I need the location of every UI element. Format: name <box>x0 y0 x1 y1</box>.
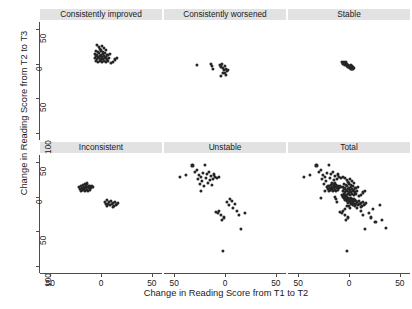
x-axis-tick <box>298 274 299 277</box>
data-point <box>109 52 112 55</box>
data-point <box>211 68 214 71</box>
data-point <box>357 185 360 188</box>
data-point <box>110 61 113 64</box>
data-point <box>344 219 347 222</box>
data-point <box>365 201 368 204</box>
panel-plot-area <box>288 22 410 140</box>
y-axis-tick-label: 100 <box>43 140 53 154</box>
y-axis-tick <box>36 29 39 30</box>
y-axis-tick <box>36 98 39 99</box>
x-axis-tick-label: 50 <box>293 278 302 288</box>
data-point <box>217 175 220 178</box>
x-axis-tick-label: 50 <box>45 278 54 288</box>
data-point <box>240 228 243 231</box>
x-axis-tick-label: 50 <box>271 278 280 288</box>
data-point <box>362 214 365 217</box>
data-point <box>195 169 198 172</box>
y-axis-tick-label: 50 <box>38 103 48 112</box>
data-point <box>384 226 387 229</box>
data-point <box>179 176 182 179</box>
data-point <box>191 164 194 167</box>
data-point <box>335 201 338 204</box>
data-point <box>319 169 322 172</box>
panel-strip-label: Stable <box>288 9 410 20</box>
data-point <box>228 203 231 206</box>
y-axis-tick <box>36 162 39 163</box>
data-point <box>364 228 367 231</box>
data-point <box>378 203 381 206</box>
x-axis-tick <box>400 274 401 277</box>
y-axis-tick <box>36 266 39 267</box>
data-point <box>356 206 359 209</box>
x-axis-tick <box>50 274 51 277</box>
data-point <box>331 170 334 173</box>
x-axis-tick-label: 0 <box>99 278 104 288</box>
data-point <box>227 68 230 71</box>
data-point <box>315 164 318 167</box>
panel-strip-label: Inconsistent <box>40 142 162 153</box>
data-point <box>88 188 91 191</box>
y-axis-tick-label: 0 <box>34 66 44 71</box>
data-point <box>380 218 383 221</box>
data-point <box>219 75 222 78</box>
panel-plot-area <box>164 155 286 273</box>
data-point <box>327 163 330 166</box>
data-point <box>224 73 227 76</box>
data-point <box>198 183 201 186</box>
data-point <box>348 206 351 209</box>
data-point <box>185 174 188 177</box>
panel-stable: Stable <box>288 9 410 140</box>
data-point <box>234 202 237 205</box>
panel-consistently-worsened: Consistently worsened <box>164 9 286 140</box>
data-point <box>203 163 206 166</box>
data-point <box>202 185 205 188</box>
data-point <box>206 181 209 184</box>
x-axis-tick <box>174 274 175 277</box>
x-axis-tick-label: 0 <box>223 278 228 288</box>
data-point <box>336 188 339 191</box>
data-point <box>222 216 225 219</box>
data-point <box>374 220 377 223</box>
scatter-plot-matrix: Change in Reading Score from T2 to T3 Ch… <box>0 0 412 309</box>
y-axis-title: Change in Reading Score from T2 to T3 <box>19 3 29 223</box>
data-point <box>114 58 117 61</box>
data-point <box>210 183 213 186</box>
x-axis-tick <box>276 274 277 277</box>
panel-plot-area <box>40 155 162 273</box>
x-axis-tick <box>225 274 226 277</box>
data-point <box>351 68 354 71</box>
y-axis-tick <box>36 197 39 198</box>
data-point <box>360 209 363 212</box>
data-point <box>204 176 207 179</box>
panel-unstable: Unstable <box>164 142 286 273</box>
data-point <box>112 206 115 209</box>
data-point <box>232 206 235 209</box>
data-point <box>117 201 120 204</box>
x-axis-tick-label: 0 <box>347 278 352 288</box>
panel-strip-label: Total <box>288 142 410 153</box>
x-axis-tick <box>349 274 350 277</box>
data-point <box>91 185 94 188</box>
data-point <box>320 178 323 181</box>
y-axis-tick-label: 50 <box>38 236 48 245</box>
data-point <box>358 194 361 197</box>
data-point <box>325 172 328 175</box>
panel-strip-label: Consistently improved <box>40 9 162 20</box>
x-axis-title: Change in Reading Score from T1 to T2 <box>40 288 412 298</box>
data-point <box>345 249 348 252</box>
panel-plot-area <box>288 155 410 273</box>
data-point <box>196 178 199 181</box>
data-point <box>220 219 223 222</box>
panel-strip-label: Consistently worsened <box>164 9 286 20</box>
data-point <box>303 176 306 179</box>
data-point <box>323 175 326 178</box>
x-axis-tick-label: 50 <box>169 278 178 288</box>
x-axis-tick <box>101 274 102 277</box>
data-point <box>221 249 224 252</box>
data-point <box>106 205 109 208</box>
data-point <box>319 196 322 199</box>
data-point <box>199 175 202 178</box>
data-point <box>328 176 331 179</box>
panel-strip-label: Unstable <box>164 142 286 153</box>
x-axis-tick-label: 50 <box>395 278 404 288</box>
